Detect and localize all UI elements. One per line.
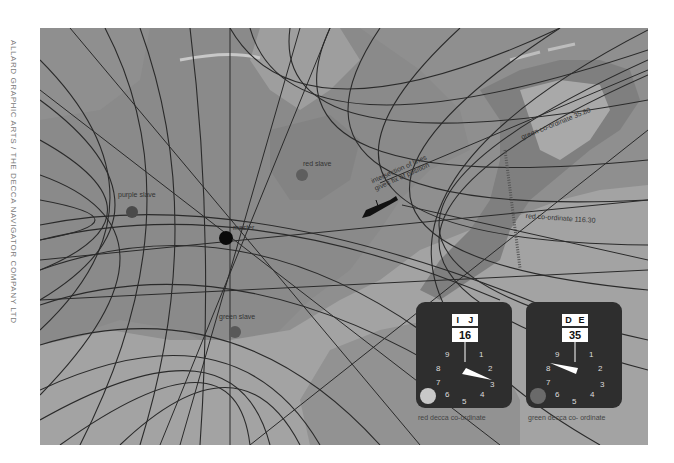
dial-2: 2 <box>598 364 602 373</box>
dial-5: 5 <box>462 397 466 406</box>
dial-8: 8 <box>546 364 550 373</box>
dial-6: 6 <box>555 390 559 399</box>
dial-3: 3 <box>490 380 494 389</box>
green-meter-caption: green decca co- ordinate <box>528 414 605 421</box>
dial-9: 9 <box>445 350 449 359</box>
red-decca-meter: I J 16 9 1 8 2 7 3 6 4 5 <box>416 302 512 408</box>
decca-chart-map: purple slave master red slave green slav… <box>40 28 648 445</box>
dial-4: 4 <box>480 390 484 399</box>
dial-9: 9 <box>555 350 559 359</box>
dial-7: 7 <box>546 378 550 387</box>
green-slave-label: green slave <box>219 313 255 320</box>
purple-slave-label: purple slave <box>118 191 156 198</box>
green-meter-zone-right: E <box>579 315 585 325</box>
green-decca-meter: D E 35 9 1 8 2 7 3 6 4 5 <box>526 302 622 408</box>
red-meter-lane: 16 <box>452 328 478 342</box>
dial-8: 8 <box>436 364 440 373</box>
green-meter-lamp <box>530 388 546 404</box>
dial-7: 7 <box>436 378 440 387</box>
dial-1: 1 <box>479 350 483 359</box>
green-slave-dot <box>229 326 241 338</box>
green-meter-zone-left: D <box>565 315 572 325</box>
dial-6: 6 <box>445 390 449 399</box>
dial-2: 2 <box>488 364 492 373</box>
green-meter-pointer <box>550 363 578 374</box>
dial-5: 5 <box>572 397 576 406</box>
dial-1: 1 <box>589 350 593 359</box>
red-meter-zone-left: I <box>457 315 460 325</box>
red-meter-zone-right: J <box>468 315 473 325</box>
dial-4: 4 <box>590 390 594 399</box>
red-meter-caption: red decca co-ordinate <box>418 414 486 421</box>
master-station-dot <box>219 231 233 245</box>
green-meter-lane: 35 <box>562 328 588 342</box>
credit-text-container: ALLARD GRAPHIC ARTS / THE DECCA NAVIGATO… <box>6 40 18 280</box>
red-slave-label: red slave <box>303 160 331 167</box>
dial-3: 3 <box>600 380 604 389</box>
purple-slave-dot <box>126 206 138 218</box>
red-meter-lamp <box>420 388 436 404</box>
master-label: master <box>233 224 254 231</box>
credit-text: ALLARD GRAPHIC ARTS / THE DECCA NAVIGATO… <box>9 40 18 324</box>
red-slave-dot <box>296 169 308 181</box>
